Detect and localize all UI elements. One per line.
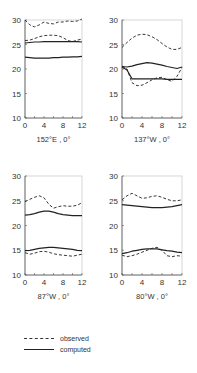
x-tick-label: 4 — [42, 278, 47, 287]
x-tick-label: 12 — [78, 278, 87, 287]
chart-panel-2: 101520253004812137°W , 0° — [109, 16, 187, 144]
y-tick-label: 20 — [12, 65, 21, 74]
y-tick-label: 25 — [109, 41, 118, 50]
y-tick-label: 30 — [109, 172, 118, 181]
y-tick-label: 25 — [12, 41, 21, 50]
chart-panel-3: 10152025300481287°W , 0° — [12, 172, 87, 301]
observed-series-line — [25, 251, 82, 256]
y-tick-label: 15 — [12, 90, 21, 99]
x-tick-label: 12 — [78, 121, 87, 130]
x-tick-label: 4 — [42, 121, 47, 130]
y-tick-label: 10 — [109, 114, 118, 123]
y-tick-label: 10 — [109, 271, 118, 280]
plot-frame — [122, 176, 182, 275]
y-tick-label: 30 — [12, 172, 21, 181]
computed-series-line — [25, 211, 82, 216]
chart-grid: 101520253004812152°E , 0°101520253004812… — [0, 0, 197, 373]
y-tick-label: 10 — [12, 114, 21, 123]
computed-series-line — [122, 63, 182, 69]
plot-frame — [122, 20, 182, 118]
panel-title: 87°W , 0° — [38, 292, 70, 301]
y-tick-label: 10 — [12, 271, 21, 280]
dashed-line-icon — [24, 338, 54, 339]
figure: 101520253004812152°E , 0°101520253004812… — [0, 0, 197, 373]
computed-series-line — [25, 247, 82, 250]
legend: observed computed — [24, 333, 91, 355]
x-tick-label: 0 — [23, 121, 28, 130]
observed-series-line — [122, 193, 182, 201]
x-tick-label: 4 — [140, 121, 145, 130]
x-tick-label: 8 — [160, 121, 165, 130]
y-tick-label: 20 — [109, 222, 118, 231]
computed-series-line — [25, 42, 82, 43]
y-tick-label: 30 — [109, 16, 118, 25]
y-tick-label: 15 — [109, 246, 118, 255]
computed-series-line — [122, 249, 182, 254]
observed-series-line — [25, 196, 82, 208]
legend-label-computed: computed — [60, 346, 91, 353]
legend-item-observed: observed — [24, 333, 91, 344]
y-tick-label: 20 — [12, 222, 21, 231]
y-tick-label: 20 — [109, 65, 118, 74]
computed-series-line — [25, 56, 82, 58]
x-tick-label: 12 — [178, 278, 187, 287]
x-tick-label: 0 — [120, 121, 125, 130]
x-tick-label: 8 — [160, 278, 165, 287]
x-tick-label: 12 — [178, 121, 187, 130]
y-tick-label: 25 — [109, 197, 118, 206]
computed-series-line — [122, 67, 182, 79]
x-tick-label: 8 — [61, 278, 66, 287]
x-tick-label: 0 — [120, 278, 125, 287]
plot-frame — [25, 20, 82, 118]
computed-series-line — [122, 205, 182, 208]
legend-item-computed: computed — [24, 344, 91, 355]
x-tick-label: 0 — [23, 278, 28, 287]
chart-panel-1: 101520253004812152°E , 0° — [12, 16, 87, 144]
solid-line-icon — [24, 349, 54, 350]
x-tick-label: 8 — [61, 121, 66, 130]
legend-label-observed: observed — [60, 335, 89, 342]
y-tick-label: 15 — [109, 90, 118, 99]
y-tick-label: 15 — [12, 246, 21, 255]
chart-panel-4: 10152025300481280°W , 0° — [109, 172, 187, 301]
x-tick-label: 4 — [140, 278, 145, 287]
panel-title: 137°W , 0° — [134, 135, 170, 144]
y-tick-label: 30 — [12, 16, 21, 25]
panel-title: 80°W , 0° — [136, 292, 168, 301]
plot-frame — [25, 176, 82, 275]
observed-series-line — [122, 34, 182, 49]
panel-title: 152°E , 0° — [37, 135, 71, 144]
y-tick-label: 25 — [12, 197, 21, 206]
observed-series-line — [25, 35, 82, 41]
